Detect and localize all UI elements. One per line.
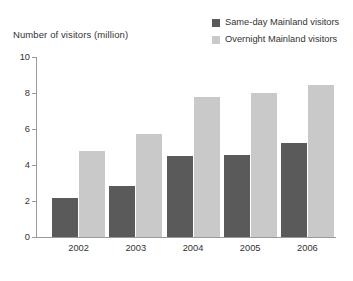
x-axis-tick-label: 2005: [240, 243, 261, 253]
bar-group: [52, 57, 105, 237]
legend-swatch-same-day: [212, 19, 220, 27]
y-axis-tick-label: 4: [25, 160, 30, 170]
legend-label-same-day: Same-day Mainland visitors: [225, 17, 339, 28]
bar: [251, 93, 277, 237]
chart-legend: Same-day Mainland visitors Overnight Mai…: [212, 17, 353, 51]
y-axis-tick-label: 6: [25, 124, 30, 134]
legend-item-overnight: Overnight Mainland visitors: [212, 34, 353, 45]
y-axis-tick-label: 0: [25, 232, 30, 242]
bar: [308, 85, 334, 237]
bar: [109, 186, 135, 237]
bar-chart: Number of visitors (million) Same-day Ma…: [0, 0, 353, 281]
x-axis-tick-label: 2002: [68, 243, 89, 253]
x-axis-tick-label: 2004: [183, 243, 204, 253]
plot-area: 024681020022003200420052006: [36, 57, 336, 238]
bar: [52, 198, 78, 237]
legend-item-same-day: Same-day Mainland visitors: [212, 17, 353, 28]
y-axis-tick-mark: [32, 165, 36, 166]
y-axis-line: [36, 57, 37, 238]
y-axis-tick-mark: [32, 129, 36, 130]
bar-group: [281, 57, 334, 237]
bar-group: [224, 57, 277, 237]
x-axis-tick-label: 2003: [125, 243, 146, 253]
bar: [79, 151, 105, 237]
x-axis-tick-label: 2006: [297, 243, 318, 253]
bar: [281, 143, 307, 237]
y-axis-tick-mark: [32, 237, 36, 238]
y-axis-tick-mark: [32, 57, 36, 58]
bar: [224, 155, 250, 237]
bar-group: [109, 57, 162, 237]
bar: [167, 156, 193, 237]
bar: [194, 97, 220, 237]
chart-axis-title: Number of visitors (million): [13, 29, 128, 40]
bar: [136, 134, 162, 237]
legend-swatch-overnight: [212, 36, 220, 44]
x-axis-line: [36, 237, 336, 238]
bar-group: [167, 57, 220, 237]
y-axis-tick-mark: [32, 201, 36, 202]
y-axis-tick-label: 10: [20, 52, 30, 62]
y-axis-tick-label: 8: [25, 88, 30, 98]
y-axis-tick-mark: [32, 93, 36, 94]
y-axis-tick-label: 2: [25, 196, 30, 206]
legend-label-overnight: Overnight Mainland visitors: [225, 34, 337, 45]
